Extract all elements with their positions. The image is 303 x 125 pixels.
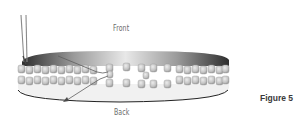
bead xyxy=(176,65,183,73)
bead xyxy=(208,76,215,84)
bead xyxy=(123,63,130,71)
bead xyxy=(106,79,113,87)
bead xyxy=(42,66,49,74)
bead xyxy=(150,64,157,72)
bead xyxy=(200,77,207,85)
bead xyxy=(123,79,130,87)
bead xyxy=(50,65,57,73)
bead xyxy=(184,66,191,74)
back-label: Back xyxy=(114,108,129,117)
bead xyxy=(58,77,65,85)
bead xyxy=(74,77,81,85)
bead xyxy=(58,66,65,74)
bead xyxy=(90,66,97,74)
bead xyxy=(138,64,145,72)
bead xyxy=(50,76,57,84)
bead xyxy=(66,76,73,84)
bead xyxy=(34,65,41,73)
bead xyxy=(42,77,49,85)
bracelet-base xyxy=(18,84,229,102)
bead xyxy=(164,64,171,72)
bead xyxy=(192,65,199,73)
beaded-bracelet-diagram xyxy=(0,0,303,125)
bead xyxy=(184,77,191,85)
bead xyxy=(200,66,207,74)
needle-icon xyxy=(21,15,27,64)
bead xyxy=(192,76,199,84)
bead xyxy=(222,76,229,84)
bead xyxy=(26,77,33,85)
bead xyxy=(18,76,25,84)
front-label: Front xyxy=(113,24,129,33)
bead xyxy=(74,66,81,74)
bead xyxy=(164,80,171,88)
bead xyxy=(143,72,149,79)
bead xyxy=(26,66,33,74)
bead xyxy=(18,65,25,73)
bead xyxy=(34,76,41,84)
bead xyxy=(66,65,73,73)
bead xyxy=(150,80,157,88)
bead xyxy=(176,76,183,84)
bead xyxy=(82,76,89,84)
figure-caption: Figure 5 xyxy=(260,93,293,103)
bead xyxy=(208,65,215,73)
bead xyxy=(222,65,229,73)
bead xyxy=(138,80,145,88)
